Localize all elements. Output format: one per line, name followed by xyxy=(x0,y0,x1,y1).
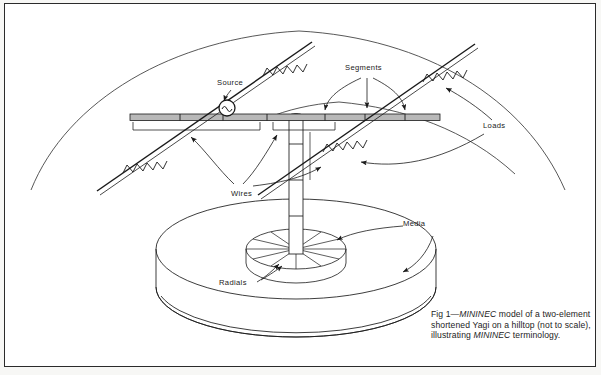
boom-bar xyxy=(130,114,440,121)
diagram-labels: Source Segments Loads Wires Media Radial… xyxy=(217,63,505,287)
caption-italic-1: MININEC xyxy=(459,309,496,319)
boom xyxy=(130,114,440,121)
label-radials: Radials xyxy=(219,278,247,287)
mast-tube xyxy=(289,116,303,254)
figure-frame: Source Segments Loads Wires Media Radial… xyxy=(4,3,596,367)
label-segments: Segments xyxy=(345,63,382,72)
wires-bracket-right xyxy=(273,122,335,130)
mast xyxy=(289,114,303,254)
wires-callout xyxy=(133,122,335,186)
label-wires: Wires xyxy=(231,189,252,198)
hilltop-inner-arc-right xyxy=(339,102,515,174)
source-symbol xyxy=(219,100,235,116)
label-media: Media xyxy=(403,219,426,228)
figure-root: Source Segments Loads Wires Media Radial… xyxy=(0,0,601,375)
radials-callout xyxy=(257,264,282,282)
label-source: Source xyxy=(217,78,243,87)
load-coil-driven-upper xyxy=(263,64,307,76)
caption-text-2: terminology. xyxy=(510,330,560,340)
load-coil-driven-lower xyxy=(123,161,167,173)
caption-prefix: Fig 1— xyxy=(431,309,459,319)
figure-caption: Fig 1—MININEC model of a two-element sho… xyxy=(431,309,591,341)
wires-bracket-left xyxy=(133,122,260,130)
loads-callout xyxy=(361,88,492,164)
label-loads: Loads xyxy=(483,121,505,130)
media-callout xyxy=(337,226,433,272)
caption-italic-2: MININEC xyxy=(473,330,510,340)
media-bottom-edge xyxy=(156,287,436,337)
media-bottom-rim xyxy=(161,296,431,333)
